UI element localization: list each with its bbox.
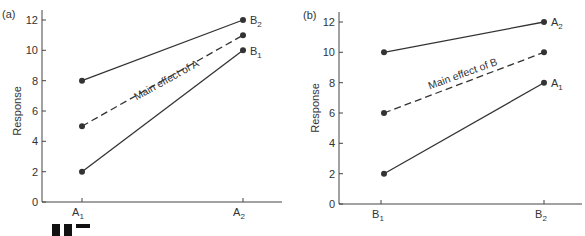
y-tick-label: 6	[329, 107, 335, 119]
y-tick-label: 0	[32, 196, 38, 208]
series-line-b1	[82, 50, 243, 171]
y-ticks: 0 2 4 6 8 10 12	[323, 16, 343, 210]
series-label-a1: A1	[551, 77, 563, 92]
panel-b: (b) 0 2 4 6 8 10 12 Response B1 B2	[303, 9, 582, 223]
panel-a: (a) 0 2 4 6 8 10 12 Response A1 A2	[2, 8, 282, 221]
caption-figure-number-fragment	[64, 224, 72, 236]
y-tick-label: 6	[32, 105, 38, 117]
series-label-b2: B2	[250, 14, 262, 29]
data-points	[381, 19, 547, 177]
data-points	[79, 17, 246, 175]
y-tick-label: 2	[329, 168, 335, 180]
y-ticks: 0 2 4 6 8 10 12	[26, 14, 46, 208]
y-tick-label: 12	[323, 16, 335, 28]
x-tick-label-b1: B1	[372, 208, 384, 223]
y-tick-label: 10	[26, 44, 38, 56]
x-tick-label-a1: A1	[72, 206, 84, 221]
series-line-a1	[384, 83, 544, 174]
series-label-a2: A2	[551, 16, 563, 31]
y-tick-label: 4	[32, 135, 38, 147]
series-line-main-effect-b	[384, 52, 544, 113]
caption-figure-number-fragment	[52, 224, 60, 236]
x-tick-label-a2: A2	[233, 206, 245, 221]
y-axis-title: Response	[11, 86, 23, 136]
caption-figure-number-fragment	[76, 224, 90, 228]
x-tick-label-b2: B2	[535, 208, 547, 223]
y-tick-label: 10	[323, 46, 335, 58]
y-tick-label: 0	[329, 198, 335, 210]
annotation-main-effect-a: Main effect of A	[132, 57, 201, 102]
y-tick-label: 12	[26, 14, 38, 26]
y-tick-label: 8	[32, 75, 38, 87]
y-tick-label: 2	[32, 166, 38, 178]
y-tick-label: 8	[329, 77, 335, 89]
series-label-b1: B1	[250, 45, 262, 60]
figure-canvas: (a) 0 2 4 6 8 10 12 Response A1 A2	[0, 0, 585, 236]
panel-b-label: (b)	[303, 9, 316, 21]
series-line-a2	[384, 22, 544, 52]
y-axis-title: Response	[309, 83, 321, 133]
panel-a-label: (a)	[2, 8, 15, 20]
y-tick-label: 4	[329, 137, 335, 149]
series-line-b2	[82, 20, 243, 81]
